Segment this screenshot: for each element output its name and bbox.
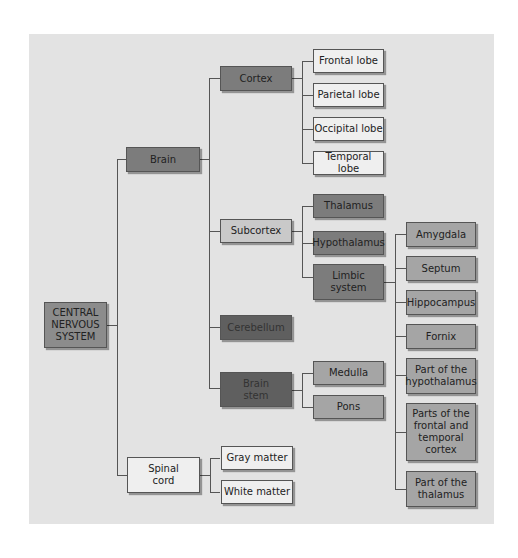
node-parts-of-frontal-temporal-cortex: Parts of the frontal and temporal cortex: [406, 403, 476, 461]
node-temporal-lobe: Temporal lobe: [313, 151, 384, 175]
node-label: Part of the: [415, 364, 467, 376]
node-cortex: Cortex: [220, 66, 292, 91]
node-label: Gray matter: [226, 452, 287, 464]
connector: [200, 159, 209, 160]
connector: [292, 231, 302, 232]
node-label: Cerebellum: [227, 322, 284, 334]
node-label: White matter: [224, 486, 290, 498]
connector: [117, 159, 126, 160]
node-spinal-cord: Spinal cord: [127, 457, 200, 493]
node-occipital-lobe: Occipital lobe: [313, 117, 384, 141]
connector: [302, 206, 303, 277]
node-label: Spinal: [148, 463, 179, 475]
node-label: hypothalamus: [405, 376, 476, 388]
node-label: temporal: [418, 432, 463, 444]
node-label: Limbic: [332, 270, 365, 282]
connector: [209, 388, 220, 389]
node-label: Brain: [150, 154, 176, 166]
connector: [209, 327, 220, 328]
connector: [302, 277, 313, 278]
node-hippocampus: Hippocampus: [406, 290, 476, 315]
node-label: Pons: [337, 401, 360, 413]
node-label: Occipital lobe: [314, 123, 382, 135]
node-label: Frontal lobe: [319, 55, 378, 67]
connector: [209, 78, 210, 388]
node-subcortex: Subcortex: [220, 219, 292, 243]
node-medulla: Medulla: [313, 361, 384, 385]
node-septum: Septum: [406, 256, 476, 281]
node-label: Medulla: [329, 367, 368, 379]
node-label: cortex: [425, 444, 457, 456]
connector: [209, 78, 220, 79]
node-central-nervous-system: CENTRAL NERVOUS SYSTEM: [44, 302, 107, 348]
node-label: Parts of the: [412, 408, 469, 420]
node-parietal-lobe: Parietal lobe: [313, 83, 384, 107]
node-part-of-thalamus: Part of the thalamus: [406, 471, 476, 507]
node-label: Septum: [422, 263, 461, 275]
connector: [117, 159, 118, 475]
node-label: frontal and: [414, 420, 469, 432]
node-label: Part of the: [415, 477, 467, 489]
connector: [395, 489, 406, 490]
connector: [302, 407, 313, 408]
node-label: Hypothalamus: [312, 237, 385, 249]
node-gray-matter: Gray matter: [221, 446, 293, 470]
connector: [210, 458, 211, 492]
connector: [384, 282, 395, 283]
connector: [302, 373, 313, 374]
connector: [117, 475, 127, 476]
connector: [292, 390, 302, 391]
node-fornix: Fornix: [406, 324, 476, 349]
connector: [292, 78, 302, 79]
node-label: Brain: [243, 378, 269, 390]
node-brain-stem: Brain stem: [220, 372, 292, 407]
node-label: NERVOUS: [51, 319, 99, 331]
connector: [107, 325, 117, 326]
connector: [302, 61, 313, 62]
connector: [302, 129, 313, 130]
connector: [395, 375, 406, 376]
connector: [302, 95, 313, 96]
connector: [395, 268, 406, 269]
node-label: SYSTEM: [56, 331, 96, 343]
node-label: Amygdala: [416, 229, 466, 241]
node-label: system: [330, 282, 366, 294]
node-pons: Pons: [313, 395, 384, 419]
connector: [395, 234, 396, 489]
node-label: Hippocampus: [407, 297, 475, 309]
node-frontal-lobe: Frontal lobe: [313, 49, 384, 73]
node-cerebellum: Cerebellum: [220, 315, 292, 340]
node-thalamus: Thalamus: [313, 194, 384, 218]
node-label: cord: [153, 475, 175, 487]
connector: [302, 61, 303, 163]
connector: [395, 302, 406, 303]
node-limbic-system: Limbic system: [313, 264, 384, 300]
node-part-of-hypothalamus: Part of the hypothalamus: [406, 358, 476, 394]
node-label: Parietal lobe: [317, 89, 379, 101]
node-label: stem: [243, 390, 268, 402]
node-amygdala: Amygdala: [406, 222, 476, 247]
connector: [302, 373, 303, 407]
node-label: Fornix: [426, 331, 456, 343]
node-label: thalamus: [418, 489, 465, 501]
node-brain: Brain: [126, 147, 200, 172]
node-white-matter: White matter: [221, 480, 293, 504]
node-label: CENTRAL: [53, 307, 99, 319]
node-label: Temporal lobe: [314, 151, 383, 175]
connector: [395, 432, 406, 433]
connector: [395, 336, 406, 337]
connector: [302, 163, 313, 164]
connector: [302, 206, 313, 207]
node-label: Cortex: [239, 73, 272, 85]
connector: [395, 234, 406, 235]
node-hypothalamus: Hypothalamus: [313, 231, 384, 255]
connector: [209, 231, 220, 232]
node-label: Subcortex: [231, 225, 282, 237]
connector: [210, 458, 220, 459]
connector: [210, 492, 220, 493]
connector: [200, 475, 210, 476]
node-label: Thalamus: [324, 200, 373, 212]
